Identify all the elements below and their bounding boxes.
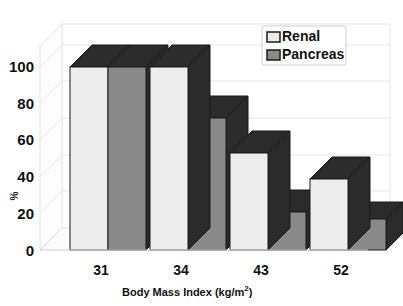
bar-side-face [188, 45, 210, 250]
y-tick-0: 0 [26, 242, 34, 259]
bar-front-face [70, 67, 108, 250]
svg-text:Body Mass Index (kg/m2): Body Mass Index (kg/m2) [122, 284, 253, 298]
x-tick-3: 52 [333, 262, 349, 278]
bar-front-face [310, 179, 348, 250]
y-axis-title: % [9, 191, 20, 200]
bar-43-renal[interactable] [230, 131, 290, 250]
bar-52-renal[interactable] [310, 157, 370, 250]
chart-legend[interactable]: Renal Pancreas [262, 26, 346, 65]
y-axis-ticks: 100 80 60 40 20 0 [9, 58, 34, 259]
bar-chart: 100 80 60 40 20 0 % [0, 0, 403, 306]
bar-front-face [150, 67, 188, 250]
x-axis-title-base: Body Mass Index (kg/m [122, 286, 244, 298]
x-axis-ticks: 31 34 43 52 [93, 262, 349, 278]
bar-front-face [230, 153, 268, 250]
legend-label-pancreas: Pancreas [282, 46, 344, 62]
y-tick-40: 40 [17, 168, 34, 185]
x-axis-title-close: ) [249, 286, 253, 298]
legend-swatch-renal [267, 32, 280, 42]
y-tick-20: 20 [17, 205, 34, 222]
y-tick-100: 100 [9, 58, 34, 75]
chart-container: 100 80 60 40 20 0 % [0, 0, 403, 306]
x-tick-2: 43 [253, 262, 269, 278]
x-tick-1: 34 [173, 262, 189, 278]
legend-label-renal: Renal [282, 28, 320, 44]
legend-swatch-pancreas [267, 50, 280, 60]
y-tick-60: 60 [17, 131, 34, 148]
bar-34-renal[interactable] [150, 45, 210, 250]
x-tick-0: 31 [93, 262, 109, 278]
x-axis-title: Body Mass Index (kg/m2) [122, 284, 253, 298]
bar-front-face [108, 67, 146, 250]
y-tick-80: 80 [17, 95, 34, 112]
